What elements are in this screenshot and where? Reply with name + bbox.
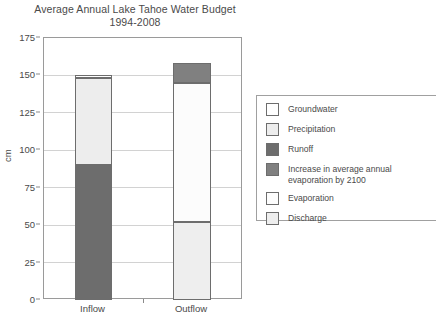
legend-item[interactable]: Groundwater <box>266 103 436 118</box>
legend-label: Evaporation <box>288 192 334 204</box>
legend-item[interactable]: Increase in average annual evaporation b… <box>266 163 436 187</box>
gridline <box>44 112 241 113</box>
bar-segment[interactable] <box>75 75 112 78</box>
chart-legend: GroundwaterPrecipitationRunoffIncrease i… <box>256 95 436 221</box>
legend-swatch <box>266 192 279 205</box>
legend-label: Increase in average annual evaporation b… <box>288 163 392 185</box>
bar-segment[interactable] <box>75 165 112 300</box>
y-tick-label: 75 <box>7 182 35 191</box>
legend-label: Runoff <box>288 143 313 155</box>
bar-segment[interactable] <box>173 222 211 300</box>
y-tick-mark <box>36 261 40 262</box>
bar-segment[interactable] <box>173 63 211 82</box>
x-tick-label-outflow: Outflow <box>175 303 207 314</box>
legend-swatch <box>266 212 279 225</box>
bar-inflow[interactable] <box>75 38 112 300</box>
gridline <box>44 75 241 76</box>
y-tick-mark <box>36 111 40 112</box>
legend-label: Groundwater <box>288 103 338 115</box>
chart-title: Average Annual Lake Tahoe Water Budget 1… <box>0 3 270 29</box>
bar-outflow[interactable] <box>173 38 211 300</box>
plot-area <box>43 37 242 299</box>
y-tick-mark <box>36 149 40 150</box>
gridline <box>44 187 241 188</box>
x-tick-mark <box>143 299 144 303</box>
bar-segment[interactable] <box>173 83 211 222</box>
gridline <box>44 225 241 226</box>
y-tick-mark <box>36 299 40 300</box>
legend-item[interactable]: Runoff <box>266 143 436 158</box>
y-tick-label: 125 <box>7 107 35 116</box>
legend-label: Discharge <box>288 212 327 224</box>
chart-title-line2: 1994-2008 <box>0 16 270 29</box>
legend-swatch <box>266 143 279 156</box>
legend-swatch <box>266 163 279 176</box>
legend-swatch <box>266 103 279 116</box>
legend-item[interactable]: Evaporation <box>266 192 436 207</box>
y-axis-ticks: 0255075100125150175 <box>8 37 40 299</box>
legend-swatch <box>266 123 279 136</box>
y-tick-label: 100 <box>7 145 35 154</box>
y-tick-label: 175 <box>7 33 35 42</box>
bar-segment[interactable] <box>75 78 112 165</box>
legend-item[interactable]: Precipitation <box>266 123 436 138</box>
y-tick-label: 25 <box>7 257 35 266</box>
y-tick-label: 50 <box>7 220 35 229</box>
y-tick-mark <box>36 74 40 75</box>
y-tick-label: 0 <box>7 295 35 304</box>
y-tick-label: 150 <box>7 70 35 79</box>
y-tick-mark <box>36 37 40 38</box>
gridline <box>44 150 241 151</box>
legend-item[interactable]: Discharge <box>266 212 436 227</box>
y-tick-mark <box>36 186 40 187</box>
y-tick-mark <box>36 224 40 225</box>
legend-label: Precipitation <box>288 123 335 135</box>
x-tick-label-inflow: Inflow <box>80 303 105 314</box>
chart-title-line1: Average Annual Lake Tahoe Water Budget <box>34 3 236 15</box>
gridline <box>44 262 241 263</box>
